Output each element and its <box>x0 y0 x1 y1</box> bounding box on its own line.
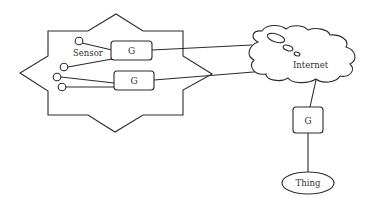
edge-sensor3-g2 <box>61 77 114 83</box>
sensor-node-4 <box>58 83 66 91</box>
gateway-1-label: G <box>128 46 135 56</box>
sensor-node-1 <box>75 37 83 45</box>
sensor-label: Sensor <box>73 48 104 58</box>
iot-diagram: Sensor G G Internet G Thing <box>0 0 376 203</box>
gateway-1: G <box>111 41 152 60</box>
edge-sensor2-g1 <box>68 59 112 67</box>
sensor-node-3 <box>53 73 61 81</box>
gateway-3: G <box>293 107 323 133</box>
thing-node: Thing <box>282 172 334 194</box>
gateway-2: G <box>114 71 154 90</box>
thing-label: Thing <box>296 178 321 188</box>
edge-internet-g3 <box>310 80 316 107</box>
internet-label: Internet <box>293 60 329 70</box>
gateway-2-label: G <box>130 76 137 86</box>
internet-cloud: Internet <box>249 25 355 82</box>
gateway-3-label: G <box>304 116 311 126</box>
edge-g1-internet <box>152 45 252 50</box>
sensor-node-2 <box>60 63 68 71</box>
